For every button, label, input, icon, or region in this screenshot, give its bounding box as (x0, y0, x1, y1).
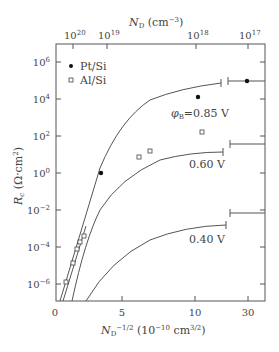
svg-text:102: 102 (33, 130, 50, 142)
chart: 1020 1019 1018 1017 ND (cm−3) 106 104 10… (0, 0, 279, 352)
svg-text:1017: 1017 (239, 29, 261, 41)
svg-text:30: 30 (242, 307, 255, 318)
right-axis-ticks (260, 62, 265, 284)
svg-text:1020: 1020 (64, 29, 86, 41)
legend-pt-marker-icon (69, 64, 73, 68)
svg-text:1018: 1018 (187, 29, 209, 41)
left-axis-labels: 106 104 102 100 10−2 10−4 10−6 (27, 56, 51, 290)
curve-040-label: 0.40 V (189, 233, 226, 246)
y-axis-title: Rc (Ω·cm2) (12, 147, 26, 206)
svg-text:10−2: 10−2 (27, 204, 50, 216)
svg-text:0: 0 (52, 307, 58, 318)
asymptotes (228, 77, 265, 217)
svg-text:100: 100 (33, 167, 50, 179)
x-axis-title: ND−1/2 (10−10 cm3/2) (100, 324, 206, 338)
curve-060-label: 0.60 V (189, 158, 226, 171)
svg-text:10−6: 10−6 (27, 278, 51, 290)
legend: Pt/Si Al/Si (69, 60, 107, 87)
pt-si-points (99, 79, 249, 175)
svg-text:10−4: 10−4 (27, 241, 51, 253)
legend-al-label: Al/Si (79, 74, 107, 87)
left-axis-ticks (56, 62, 61, 284)
svg-text:106: 106 (33, 56, 51, 68)
top-axis-ticks (73, 44, 248, 49)
al-si-points (64, 130, 204, 284)
svg-text:104: 104 (33, 93, 51, 105)
legend-pt-label: Pt/Si (80, 60, 107, 73)
curve-085-label: φB=0.85 V (171, 107, 230, 121)
top-axis-labels: 1020 1019 1018 1017 (64, 29, 261, 41)
legend-al-marker-icon (69, 78, 73, 82)
svg-text:5: 5 (119, 307, 125, 318)
bottom-axis-ticks (122, 296, 248, 301)
svg-text:10: 10 (189, 307, 202, 318)
top-axis-title: ND (cm−3) (128, 16, 183, 30)
bottom-axis-labels: 0 5 10 30 (52, 307, 255, 318)
svg-text:1019: 1019 (98, 29, 120, 41)
